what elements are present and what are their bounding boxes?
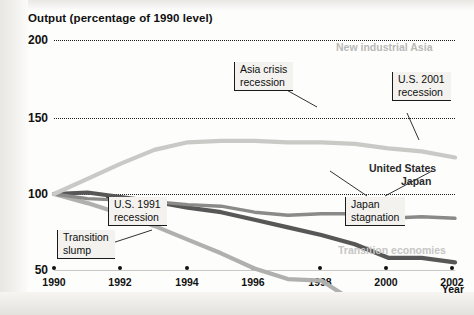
callout-asia-crisis: Asia crisis recession [234,62,293,91]
series-label-united-states: United States [369,162,436,174]
leader-japan-stagnation-a [330,171,367,196]
plot-area: 200 150 100 50 1990 1992 1994 1996 1998 … [0,0,474,292]
callout-us-2001: U.S. 2001 recession [392,72,451,101]
leader-us-2001 [407,113,419,140]
series-label-new-industrial-asia: New industrial Asia [336,41,432,53]
callout-transition-slump: Transition slump [57,230,115,259]
x-axis-title: Year [442,283,464,295]
series-label-transition-economies: Transition economies [338,244,446,256]
callout-us-1991: U.S. 1991 recession [108,197,167,226]
scan-edge-bottom [0,292,474,315]
series-label-japan: Japan [401,175,431,187]
chart-figure: Output (percentage of 1990 level) 200 15… [0,0,474,315]
callout-japan-stagnation: Japan stagnation [345,197,405,226]
